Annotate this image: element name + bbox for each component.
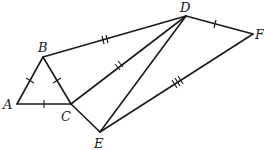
- segment-EF: [100, 34, 253, 132]
- segment-DE: [100, 16, 186, 132]
- label-C: C: [61, 109, 71, 124]
- segment-DF: [186, 16, 253, 34]
- segment-CD: [71, 16, 186, 104]
- label-A: A: [2, 97, 12, 112]
- label-D: D: [179, 0, 191, 15]
- label-E: E: [93, 136, 104, 150]
- label-F: F: [254, 27, 264, 42]
- geometry-diagram: A B C D E F: [0, 0, 264, 150]
- label-B: B: [37, 40, 48, 55]
- segment-BD: [43, 16, 186, 57]
- tick-marks: [26, 20, 216, 108]
- tick-AB: [26, 78, 34, 83]
- tick-BC: [53, 78, 61, 83]
- segment-CE: [71, 104, 100, 132]
- point-labels: A B C D E F: [2, 0, 264, 150]
- segments: [17, 16, 253, 132]
